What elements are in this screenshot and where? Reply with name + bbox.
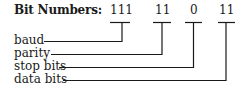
bit-numbers-diagram: Bit Numbers: 111 11 0 11 baud parity sto… (0, 0, 244, 91)
connector-lines (0, 0, 244, 91)
